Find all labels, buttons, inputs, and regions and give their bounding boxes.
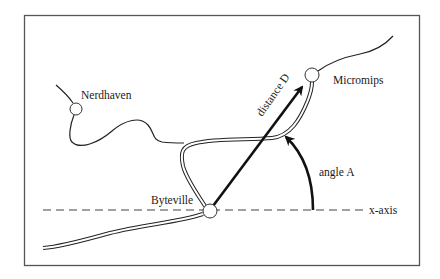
road-micromips-northeast (318, 36, 393, 71)
town-marker-byteville (203, 204, 217, 218)
town-label-nerdhaven: Nerdhaven (81, 89, 132, 101)
town-label-byteville: Byteville (151, 194, 193, 207)
highway (43, 82, 312, 248)
angle-arc-arrow (286, 137, 313, 210)
angle-label: angle A (319, 166, 355, 179)
x-axis-label: x-axis (369, 204, 398, 216)
town-label-micromips: Micromips (333, 74, 384, 87)
road-nerdhaven-east (70, 115, 184, 145)
road-nerdhaven-north (56, 85, 73, 103)
map-diagram: Nerdhaven Byteville Micromips distance D… (0, 0, 440, 279)
town-marker-nerdhaven (70, 103, 82, 115)
distance-label: distance D (254, 71, 292, 118)
town-marker-micromips (305, 68, 319, 82)
